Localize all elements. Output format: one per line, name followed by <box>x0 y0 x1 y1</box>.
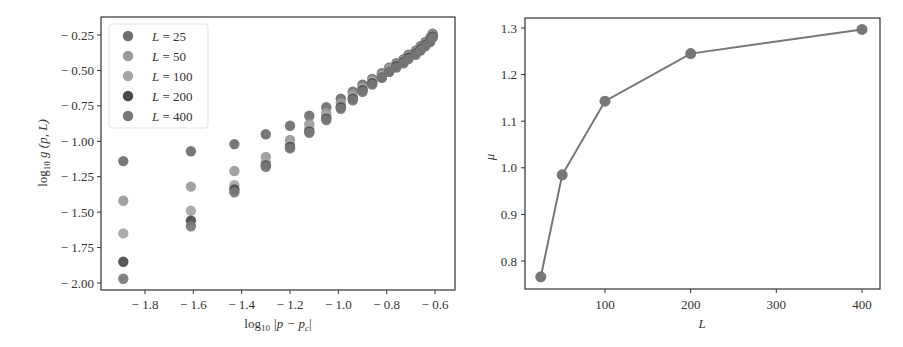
y-tick-label: − 0.75 <box>61 98 94 113</box>
y-tick-label: 1.2 <box>501 67 517 82</box>
y-tick-label: − 1.50 <box>61 205 94 220</box>
scatter-point <box>118 257 128 267</box>
legend-label: L = 100 <box>151 69 193 84</box>
y-tick-label: − 1.75 <box>61 240 94 255</box>
y-tick-label: 0.9 <box>501 207 517 222</box>
scatter-point <box>304 128 314 138</box>
y-tick-label: − 0.25 <box>61 28 94 43</box>
legend-label: L = 25 <box>151 29 186 44</box>
y-tick-label: − 2.00 <box>61 276 94 291</box>
scatter-point <box>118 196 128 206</box>
scatter-point <box>285 121 295 131</box>
right-y-axis-label: μ <box>482 153 497 161</box>
line-marker <box>857 24 868 35</box>
legend-marker <box>123 111 133 121</box>
left-x-axis-label: log10 |p − pc| <box>244 316 311 333</box>
legend-marker <box>123 71 133 81</box>
x-tick-label: − 1.0 <box>325 297 352 312</box>
left-scatter-plot: − 1.8− 1.6− 1.4− 1.2− 1.0− 0.8− 0.6 − 0.… <box>35 17 455 333</box>
y-tick-label: − 0.50 <box>61 63 94 78</box>
x-tick-label: − 0.6 <box>422 297 449 312</box>
legend: L = 25L = 50L = 100L = 200L = 400 <box>109 24 208 128</box>
x-tick-label: − 0.8 <box>373 297 400 312</box>
scatter-point <box>186 221 196 231</box>
y-tick-label: 0.8 <box>501 254 517 269</box>
x-tick-label: − 1.6 <box>180 297 207 312</box>
line-series <box>535 24 867 282</box>
line-marker <box>535 271 546 282</box>
scatter-point <box>357 87 367 97</box>
line-marker <box>685 48 696 59</box>
scatter-point <box>321 115 331 125</box>
scatter-point <box>427 33 437 43</box>
scatter-point <box>348 95 358 105</box>
right-plot-frame <box>525 18 880 289</box>
legend-marker <box>123 51 133 61</box>
scatter-point <box>118 228 128 238</box>
scatter-point <box>229 187 239 197</box>
x-tick-label: 300 <box>767 297 787 312</box>
scatter-point <box>367 79 377 89</box>
mu-line <box>541 29 862 276</box>
line-marker <box>600 96 611 107</box>
x-tick-label: − 1.8 <box>132 297 159 312</box>
x-tick-label: − 1.2 <box>277 297 304 312</box>
y-tick-label: 1.0 <box>501 160 517 175</box>
right-x-axis-ticks: 100200300400 <box>595 289 872 312</box>
y-tick-label: 1.3 <box>501 21 517 36</box>
scatter-point <box>261 129 271 139</box>
x-tick-label: 400 <box>852 297 872 312</box>
legend-marker <box>123 91 133 101</box>
left-x-axis-ticks: − 1.8− 1.6− 1.4− 1.2− 1.0− 0.8− 0.6 <box>132 290 449 312</box>
scatter-point <box>285 143 295 153</box>
scatter-point <box>336 104 346 114</box>
right-line-plot: 100200300400 0.80.91.01.11.21.3 L μ <box>482 18 880 331</box>
legend-marker <box>123 31 133 41</box>
right-x-axis-label: L <box>697 316 705 331</box>
right-y-axis-ticks: 0.80.91.01.11.21.3 <box>501 21 525 269</box>
scatter-point <box>118 156 128 166</box>
y-tick-label: 1.1 <box>501 114 517 129</box>
scatter-point <box>229 139 239 149</box>
x-tick-label: 200 <box>681 297 701 312</box>
scatter-point <box>118 274 128 284</box>
x-tick-label: 100 <box>595 297 615 312</box>
legend-label: L = 200 <box>151 89 193 104</box>
figure: − 1.8− 1.6− 1.4− 1.2− 1.0− 0.8− 0.6 − 0.… <box>0 0 903 347</box>
scatter-point <box>186 181 196 191</box>
left-y-axis-label: log10 g (p, L) <box>35 119 52 187</box>
left-y-axis-ticks: − 0.25− 0.50− 0.75− 1.00− 1.25− 1.50− 1.… <box>61 28 101 291</box>
scatter-point <box>186 206 196 216</box>
scatter-point <box>186 146 196 156</box>
legend-label: L = 50 <box>151 49 186 64</box>
y-tick-label: − 1.00 <box>61 134 94 149</box>
legend-label: L = 400 <box>151 109 193 124</box>
y-tick-label: − 1.25 <box>61 169 94 184</box>
scatter-point <box>229 166 239 176</box>
line-marker <box>557 169 568 180</box>
x-tick-label: − 1.4 <box>228 297 255 312</box>
scatter-point <box>261 162 271 172</box>
